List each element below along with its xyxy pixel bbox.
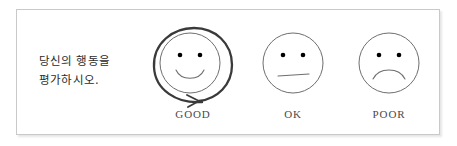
rating-label-ok: OK (247, 108, 339, 120)
rating-label-poor: POOR (343, 108, 435, 120)
instruction-text: 당신의 행동을 평가하시오. (39, 52, 159, 90)
panel-inner-surface: 당신의 행동을 평가하시오. (17, 10, 439, 134)
frowning-face-icon[interactable] (343, 22, 435, 108)
rating-option-ok[interactable]: OK (247, 22, 339, 130)
smiling-face-icon[interactable] (147, 22, 239, 108)
rating-option-poor[interactable]: POOR (343, 22, 435, 130)
framed-panel: 당신의 행동을 평가하시오. (16, 9, 440, 135)
instruction-line-2: 평가하시오. (39, 71, 159, 90)
rating-label-good: GOOD (147, 108, 239, 120)
instruction-line-1: 당신의 행동을 (39, 52, 159, 71)
rating-option-good[interactable]: GOOD (147, 22, 239, 130)
rating-options-row: GOOD OK (147, 22, 433, 130)
neutral-face-icon[interactable] (247, 22, 339, 108)
rating-scale-image: 당신의 행동을 평가하시오. (0, 0, 457, 146)
